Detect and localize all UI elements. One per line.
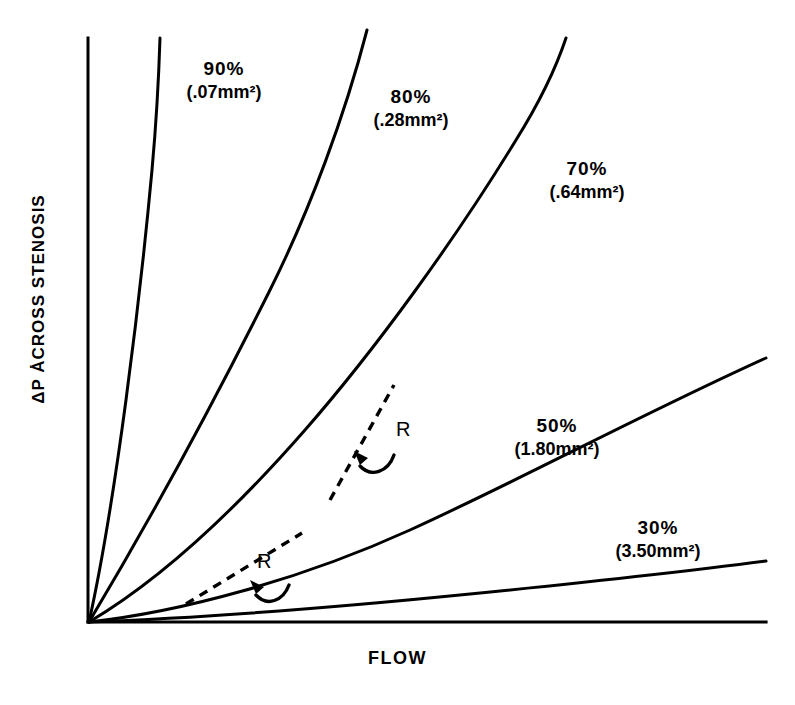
curve-90: [89, 38, 160, 622]
curve-label-80: 80% (.28mm²): [363, 85, 459, 132]
curve-label-50-area: (1.80mm²): [502, 438, 612, 461]
resistance-label-lower: R: [257, 550, 271, 573]
resistance-tangents-group: [186, 385, 394, 604]
curve-label-70: 70% (.64mm²): [538, 157, 636, 204]
stenosis-pressure-flow-figure: 90% (.07mm²) 80% (.28mm²) 70% (.64mm²) 5…: [0, 0, 795, 705]
curve-label-70-area: (.64mm²): [538, 181, 636, 204]
curve-label-30-area: (3.50mm²): [603, 540, 713, 563]
r-arrowhead-upper: [354, 451, 368, 465]
curve-80: [89, 30, 367, 622]
curve-label-30-percent: 30%: [603, 516, 713, 540]
curve-label-70-percent: 70%: [538, 157, 636, 181]
resistance-label-upper: R: [396, 418, 410, 441]
x-axis-label: FLOW: [0, 648, 795, 669]
curve-50: [89, 358, 766, 622]
y-axis-label: ΔP ȦCROSS STENOSIS: [29, 159, 49, 439]
curve-label-90-area: (.07mm²): [178, 81, 270, 104]
curve-70: [89, 38, 566, 622]
curve-label-90-percent: 90%: [178, 57, 270, 81]
curve-label-80-area: (.28mm²): [363, 109, 459, 132]
tangent-line-upper: [330, 385, 394, 500]
curve-label-30: 30% (3.50mm²): [603, 516, 713, 563]
curve-label-50: 50% (1.80mm²): [502, 414, 612, 461]
curve-label-50-percent: 50%: [502, 414, 612, 438]
curve-label-80-percent: 80%: [363, 85, 459, 109]
curve-30: [89, 561, 766, 622]
r-arrows-group: [250, 451, 394, 601]
curve-label-90: 90% (.07mm²): [178, 57, 270, 104]
